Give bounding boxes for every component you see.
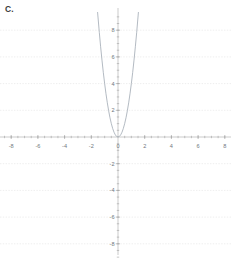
x-tick-label: 8 bbox=[223, 143, 226, 149]
coordinate-plane-plot: -8-6-4-202468 -8-6-4-22468 bbox=[0, 0, 231, 259]
y-tick-label: 4 bbox=[111, 81, 114, 87]
y-tick-label: 8 bbox=[111, 27, 114, 33]
y-tick-label: -8 bbox=[110, 241, 115, 247]
x-tick-label: 4 bbox=[170, 143, 173, 149]
x-tick-label: -2 bbox=[89, 143, 94, 149]
y-tick-label: 6 bbox=[111, 54, 114, 60]
graph-figure: -8-6-4-202468 -8-6-4-22468 bbox=[0, 0, 231, 259]
x-tick-label: -8 bbox=[9, 143, 14, 149]
x-tick-label: 2 bbox=[143, 143, 146, 149]
y-tick-label: -6 bbox=[110, 214, 115, 220]
y-tick-label: -4 bbox=[110, 187, 115, 193]
x-tick-label: 0 bbox=[116, 143, 119, 149]
x-tick-label: 6 bbox=[197, 143, 200, 149]
y-tick-label: 2 bbox=[111, 107, 114, 113]
y-tick-label: -2 bbox=[110, 161, 115, 167]
x-axis-tick-labels: -8-6-4-202468 bbox=[9, 143, 227, 149]
x-tick-label: -4 bbox=[62, 143, 67, 149]
x-tick-label: -6 bbox=[35, 143, 40, 149]
